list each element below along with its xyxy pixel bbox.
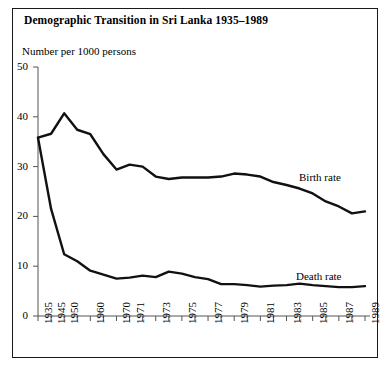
x-tick-label: 1935 <box>42 302 54 324</box>
y-tick-marks <box>33 67 38 316</box>
x-tick-label: 1970 <box>120 302 132 324</box>
x-tick-label: 1983 <box>291 302 303 324</box>
data-series <box>38 113 365 287</box>
x-tick-marks <box>38 316 365 321</box>
y-tick-label: 0 <box>6 309 28 321</box>
x-tick-label: 1981 <box>264 302 276 324</box>
x-tick-label: 1950 <box>68 302 80 324</box>
series-line-death-rate <box>38 138 365 287</box>
series-label-birth-rate: Birth rate <box>299 171 341 183</box>
y-tick-label: 20 <box>6 209 28 221</box>
x-tick-label: 1985 <box>317 302 329 324</box>
x-tick-label: 1989 <box>369 302 381 324</box>
x-tick-label: 1960 <box>94 302 106 324</box>
y-tick-label: 30 <box>6 160 28 172</box>
x-tick-label: 1975 <box>186 302 198 324</box>
x-tick-label: 1971 <box>134 302 146 324</box>
x-tick-label: 1945 <box>55 302 67 324</box>
x-tick-label: 1979 <box>238 302 250 324</box>
y-tick-label: 10 <box>6 259 28 271</box>
x-tick-label: 1973 <box>160 302 172 324</box>
y-tick-label: 50 <box>6 60 28 72</box>
y-tick-label: 40 <box>6 110 28 122</box>
series-line-birth-rate <box>38 113 365 213</box>
x-tick-label: 1987 <box>343 302 355 324</box>
x-tick-label: 1977 <box>212 302 224 324</box>
chart-figure: Demographic Transition in Sri Lanka 1935… <box>0 0 389 370</box>
series-label-death-rate: Death rate <box>296 270 342 282</box>
